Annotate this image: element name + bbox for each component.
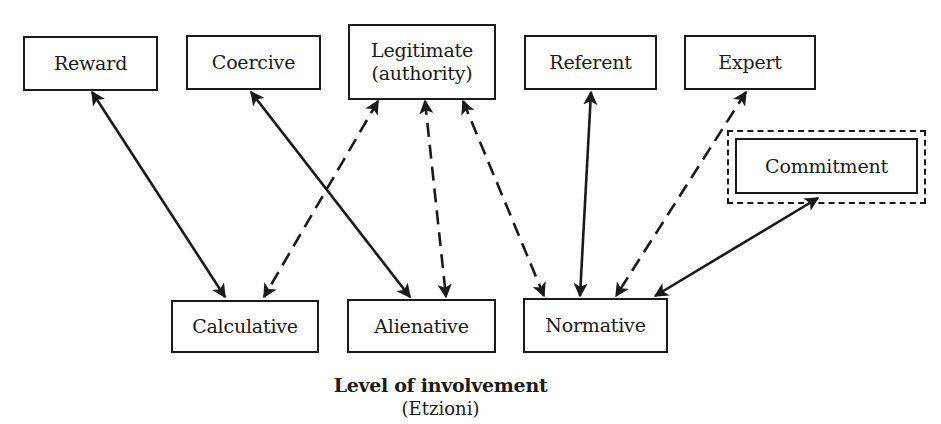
node-referent-label: Referent: [549, 51, 631, 74]
node-referent: Referent: [524, 35, 657, 90]
edge-referent-normative: [580, 92, 591, 296]
edge-reward-calculative: [92, 92, 225, 297]
node-coercive-label: Coercive: [212, 51, 295, 74]
caption-title: Level of involvement: [0, 374, 881, 396]
edge-legitimate-normative: [463, 101, 544, 296]
node-normative: Normative: [523, 298, 668, 353]
node-reward: Reward: [23, 36, 158, 91]
caption-source: (Etzioni): [0, 398, 881, 419]
edge-legitimate-alienative: [425, 101, 446, 297]
node-normative-label: Normative: [545, 314, 645, 337]
edge-legitimate-calculative: [264, 101, 378, 297]
node-expert: Expert: [684, 35, 816, 90]
edge-commitment-normative: [655, 198, 818, 296]
edge-coercive-alienative: [251, 92, 410, 297]
node-alienative-label: Alienative: [374, 315, 468, 338]
power-involvement-diagram: Reward Coercive Legitimate (authority) R…: [0, 0, 941, 424]
node-calculative: Calculative: [171, 300, 319, 353]
node-calculative-label: Calculative: [192, 315, 298, 338]
node-alienative: Alienative: [347, 299, 496, 353]
edge-layer: [92, 92, 818, 297]
node-commitment-label: Commitment: [765, 155, 888, 178]
node-reward-label: Reward: [54, 52, 127, 75]
node-coercive: Coercive: [186, 35, 321, 90]
node-legitimate-authority: Legitimate (authority): [348, 24, 496, 100]
node-expert-label: Expert: [718, 51, 782, 74]
node-commitment: Commitment: [735, 138, 918, 194]
node-legitimate-label: Legitimate (authority): [371, 39, 473, 85]
